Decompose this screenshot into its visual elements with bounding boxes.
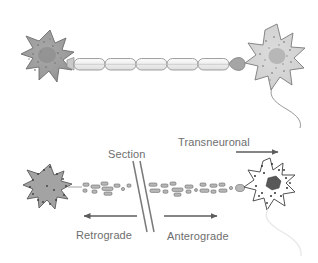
anterograde-label: Anterograde: [167, 230, 229, 242]
tracer-granule: [83, 183, 89, 186]
tracer-granule: [149, 183, 157, 186]
tracer-granule: [219, 189, 227, 192]
postsynaptic-nucleus: [269, 48, 286, 64]
tracer-granule: [121, 187, 124, 190]
tracer-granule: [185, 185, 193, 188]
myelinated-axon: [74, 59, 229, 71]
tracer-granule: [92, 190, 97, 193]
tracer-granule: [83, 189, 87, 192]
transneuronal-label: Transneuronal: [178, 136, 250, 148]
tracer-granule: [210, 184, 217, 187]
axonal-transport-diagram: Transneuronal Section Retrograde Anterog…: [0, 0, 318, 263]
tracer-granule: [195, 189, 198, 192]
tracer-granule: [170, 182, 176, 185]
tracer-granule: [229, 186, 232, 189]
tracer-granule: [114, 184, 120, 187]
tracer-granule: [163, 190, 168, 193]
tracer-granule: [172, 188, 183, 191]
tracer-granule: [104, 192, 112, 195]
tracer-terminal-bouton: [236, 184, 245, 191]
tracer-granule: [219, 183, 225, 186]
tracer-granule: [186, 190, 191, 193]
tracer-granule: [91, 185, 100, 188]
tracer-granule: [200, 189, 209, 192]
tracer-granule: [150, 189, 160, 192]
tracer-granule: [102, 187, 113, 190]
tracer-granule: [127, 184, 131, 187]
section-label: Section: [108, 148, 145, 160]
tracer-granule: [101, 182, 108, 185]
tracer-granule: [161, 184, 168, 187]
figure-root: Transneuronal Section Retrograde Anterog…: [0, 0, 318, 263]
retrograde-label: Retrograde: [76, 229, 132, 241]
presynaptic-nucleus: [38, 47, 56, 63]
tracer-granule: [200, 183, 206, 186]
tracer-granule: [174, 193, 181, 196]
tracer-granule: [211, 190, 216, 193]
